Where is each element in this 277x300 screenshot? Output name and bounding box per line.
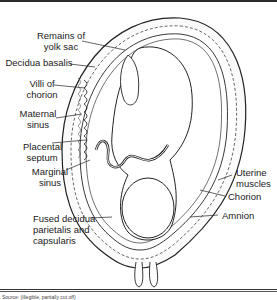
- label-line: sinus: [18, 119, 58, 130]
- label-line: parietalis and: [33, 224, 103, 235]
- label-remains-of-yolk-sac: Remains of yolk sac: [30, 30, 92, 52]
- bottom-border-rule: [0, 289, 277, 290]
- label-chorion: Chorion: [228, 191, 276, 202]
- label-line: Chorion: [228, 191, 276, 202]
- label-line: yolk sac: [30, 41, 92, 52]
- label-line: Marginal: [30, 166, 70, 177]
- label-maternal-sinus: Maternal sinus: [18, 108, 58, 130]
- label-line: sinus: [30, 177, 70, 188]
- label-line: Fused decidua: [33, 213, 103, 224]
- fetus-head: [122, 178, 174, 238]
- label-uterine-muscles: Uterine muscles: [236, 167, 276, 189]
- label-villi-of-chorion: Villi of chorion: [22, 78, 62, 100]
- label-placental-septum: Placental septum: [23, 141, 61, 163]
- label-fused-decidua: Fused decidua parietalis and capsularis: [33, 213, 103, 246]
- label-line: Maternal: [18, 108, 58, 119]
- label-line: Placental: [23, 141, 61, 152]
- label-line: muscles: [236, 178, 276, 189]
- label-amnion: Amnion: [222, 210, 272, 221]
- label-line: Decidua basalis: [3, 57, 75, 68]
- label-line: Amnion: [222, 210, 272, 221]
- label-line: chorion: [22, 89, 62, 100]
- label-line: Uterine: [236, 167, 276, 178]
- label-marginal-sinus: Marginal sinus: [30, 166, 70, 188]
- label-line: capsularis: [33, 235, 103, 246]
- bottom-border-rule-2: [0, 291, 277, 292]
- figure-caption: Source: (illegible, partially cut off): [2, 294, 277, 300]
- label-line: septum: [23, 152, 61, 163]
- label-decidua-basalis: Decidua basalis: [3, 57, 75, 68]
- label-line: Remains of: [30, 30, 92, 41]
- label-line: Villi of: [22, 78, 62, 89]
